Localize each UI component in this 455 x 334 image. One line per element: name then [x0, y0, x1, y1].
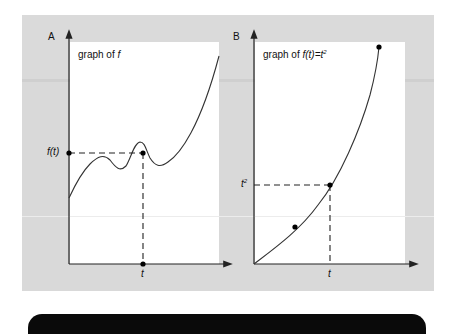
- panel-a-title-prefix: graph of: [78, 49, 117, 60]
- panel-a-point-t: [140, 261, 145, 266]
- panel-a-title-var: f: [117, 49, 120, 60]
- panel-a-letter: A: [48, 31, 55, 42]
- panel-a-point-curve: [140, 150, 145, 155]
- panel-a-x-label: t: [141, 268, 144, 279]
- panel-b-curve: [254, 47, 379, 264]
- panel-b-point-t: [327, 182, 332, 187]
- panel-b-axes: [254, 34, 414, 264]
- panel-b-title: graph of f(t)=t2: [263, 49, 327, 60]
- panel-a-curve: [69, 56, 219, 198]
- panel-b-x-label: t: [328, 268, 331, 279]
- panel-b-point-low: [292, 224, 297, 229]
- panel-b-y-label: t2: [241, 178, 247, 189]
- panel-a-point-ft: [66, 150, 71, 155]
- panel-b-y-label-sup: 2: [244, 178, 247, 184]
- panel-b-title-sup: 2: [323, 49, 326, 55]
- panel-b-guides: [254, 185, 330, 264]
- panel-a-y-label: f(t): [47, 146, 59, 157]
- panel-a-axes: [69, 34, 228, 264]
- bottom-bar: [28, 314, 426, 334]
- panel-b-title-func: f(t)=t: [302, 49, 323, 60]
- panel-b-point-top: [376, 44, 381, 49]
- panel-a-title: graph of f: [78, 49, 120, 60]
- panel-b-letter: B: [233, 31, 240, 42]
- panel-b-title-prefix: graph of: [263, 49, 302, 60]
- panel-a-guides: [69, 153, 143, 264]
